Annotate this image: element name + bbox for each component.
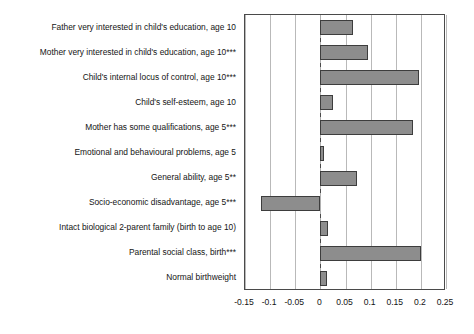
category-tick — [320, 189, 321, 193]
category-label: Child's self-esteem, age 10 — [0, 97, 236, 107]
bar — [320, 221, 328, 236]
horizontal-bar-chart: Father very interested in child's educat… — [0, 0, 474, 334]
x-axis-tick-labels: -0.15-0.1-0.0500.050.10.150.20.25 — [244, 296, 445, 312]
category-tick — [320, 164, 321, 168]
bar — [320, 95, 333, 110]
bar — [320, 271, 327, 286]
category-tick — [320, 138, 321, 142]
gridline — [245, 15, 246, 289]
category-label: Mother very interested in child's educat… — [0, 47, 236, 57]
category-label: Normal birthweight — [0, 272, 236, 282]
category-label-column: Father very interested in child's educat… — [0, 14, 240, 290]
x-tick-label: 0 — [317, 296, 322, 308]
category-tick — [320, 264, 321, 268]
category-tick — [320, 214, 321, 218]
category-label: Father very interested in child's educat… — [0, 22, 236, 32]
category-label: Parental social class, birth*** — [0, 247, 236, 257]
bar — [320, 45, 368, 60]
gridline — [421, 15, 422, 289]
category-label: Mother has some qualifications, age 5*** — [0, 122, 236, 132]
bar — [320, 246, 421, 261]
gridline — [446, 15, 447, 289]
x-tick-label: 0.05 — [336, 296, 353, 308]
plot-area — [244, 14, 445, 290]
bar — [320, 146, 324, 161]
category-label: Child's internal locus of control, age 1… — [0, 72, 236, 82]
bar — [320, 20, 353, 35]
category-label: General ability, age 5** — [0, 172, 236, 182]
category-label: Intact biological 2-parent family (birth… — [0, 222, 236, 232]
x-tick-label: -0.05 — [284, 296, 304, 308]
category-label: Emotional and behavioural problems, age … — [0, 147, 236, 157]
category-tick — [320, 239, 321, 243]
x-tick-label: 0.2 — [414, 296, 426, 308]
bar — [320, 120, 413, 135]
x-tick-label: 0.25 — [437, 296, 454, 308]
bar — [320, 70, 419, 85]
category-label: Socio-economic disadvantage, age 5*** — [0, 197, 236, 207]
x-tick-label: -0.1 — [262, 296, 277, 308]
category-tick — [320, 63, 321, 67]
x-tick-label: 0.15 — [386, 296, 403, 308]
category-tick — [320, 88, 321, 92]
x-tick-label: 0.1 — [364, 296, 376, 308]
gridline — [295, 15, 296, 289]
gridline — [270, 15, 271, 289]
x-tick-label: -0.15 — [234, 296, 254, 308]
bar — [320, 171, 356, 186]
category-tick — [320, 38, 321, 42]
bar — [261, 196, 320, 211]
category-tick — [320, 113, 321, 117]
